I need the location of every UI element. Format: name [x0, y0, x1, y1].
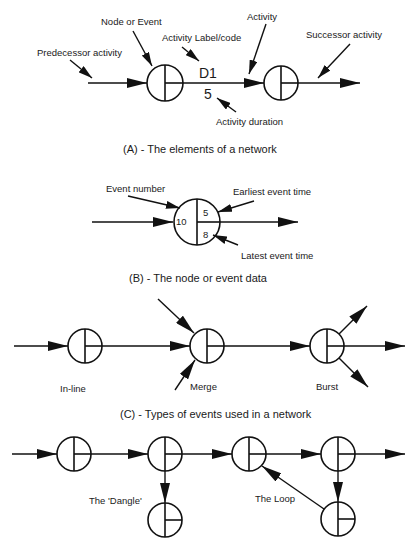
pointer-arrow: [133, 31, 152, 66]
node-label: Node or Event: [101, 16, 162, 27]
earliest-time: 5: [203, 207, 208, 218]
event-node: [57, 437, 91, 471]
merge-label: Merge: [190, 381, 217, 392]
arrow: [339, 358, 368, 387]
burst-label: Burst: [316, 381, 339, 392]
pointer-arrow: [217, 98, 236, 112]
activity-label-label: Activity Label/code: [162, 32, 241, 43]
earliest-label: Earliest event time: [233, 186, 311, 197]
event-number-label: Event number: [106, 183, 165, 194]
successor-label: Successor activity: [306, 29, 382, 40]
caption-b: (B) - The node or event data: [129, 272, 268, 284]
inline-event-node: [68, 329, 102, 363]
section-a: Predecessor activity Node or Event Activ…: [37, 11, 382, 155]
pointer-arrow: [213, 235, 238, 245]
loop-event-node: [321, 502, 355, 536]
activity-code: D1: [199, 65, 217, 81]
dangle-event-node: [148, 503, 182, 537]
section-b: Event number Earliest event time Latest …: [92, 183, 313, 284]
caption-c: (C) - Types of events used in a network: [120, 408, 312, 420]
section-d: The 'Dangle' The Loop: [12, 437, 405, 537]
pointer-arrow: [70, 60, 92, 78]
merge-event-node: [190, 329, 224, 363]
event-node: [232, 437, 266, 471]
event-node: [264, 66, 298, 100]
inline-label: In-line: [60, 383, 86, 394]
latest-label: Latest event time: [241, 250, 313, 261]
arrow: [339, 306, 367, 334]
loop-label: The Loop: [255, 493, 295, 504]
network-diagram: Predecessor activity Node or Event Activ…: [0, 0, 415, 557]
pointer-arrow: [182, 47, 199, 61]
event-node: [148, 437, 182, 471]
predecessor-label: Predecessor activity: [37, 47, 122, 58]
section-c: In-line Merge Burst (C) - Types of event…: [14, 299, 405, 420]
activity-duration: 5: [204, 86, 212, 102]
event-node: [147, 65, 183, 101]
pointer-arrow: [249, 24, 266, 74]
pointer-arrow: [218, 201, 254, 212]
arrow: [158, 299, 194, 333]
dangle-label: The 'Dangle': [89, 495, 142, 506]
caption-a: (A) - The elements of a network: [123, 143, 277, 155]
activity-label: Activity: [247, 11, 277, 22]
latest-time: 8: [203, 229, 208, 240]
event-node: [321, 437, 355, 471]
duration-label: Activity duration: [216, 116, 283, 127]
pointer-arrow: [128, 196, 180, 208]
burst-event-node: [310, 329, 344, 363]
pointer-arrow: [318, 44, 350, 78]
event-number: 10: [176, 216, 187, 227]
